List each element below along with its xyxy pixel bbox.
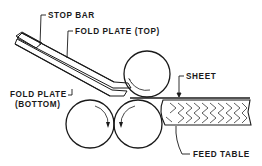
feed-table [161,100,251,125]
fold-plate-bottom [15,39,127,96]
stop-bar-label: STOP BAR [48,11,95,20]
bottom-left-roller [66,100,114,148]
bottom-right-roller [114,100,162,148]
fold-plate-bottom-label-2: (BOTTOM) [15,100,61,109]
top-roller [124,51,170,97]
feed-table-label: FEED TABLE [193,150,250,159]
fold-plate-top [17,33,131,88]
sheet-label: SHEET [186,72,216,81]
fold-plate-bottom-label-1: FOLD PLATE [10,90,67,99]
fold-plate-top-label: FOLD PLATE (TOP) [75,27,160,36]
folding-mechanism-diagram: STOP BAR FOLD PLATE (TOP) FOLD PLATE (BO… [0,0,262,166]
